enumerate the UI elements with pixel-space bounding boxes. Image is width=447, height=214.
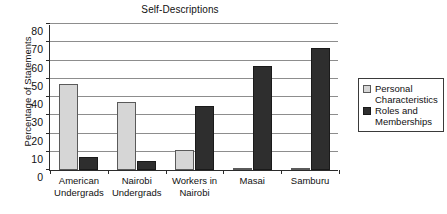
bar <box>175 150 194 170</box>
chart-figure: Self-Descriptions Percentage of Statemen… <box>0 0 447 214</box>
legend-swatch-icon <box>363 107 371 115</box>
x-tick-mark <box>223 170 224 174</box>
bar-group <box>166 25 224 170</box>
x-tick-label: Nairobi Undergrads <box>108 175 166 198</box>
bar <box>59 84 78 170</box>
chart-legend: Personal CharacteristicsRoles and Member… <box>358 78 444 132</box>
bar <box>79 157 98 170</box>
x-tick-label: American Undergrads <box>50 175 108 198</box>
plot-area: 80706050403020100 American UndergradsNai… <box>49 25 338 171</box>
bar-group <box>50 25 108 170</box>
x-tick-mark <box>281 170 282 174</box>
bar-group <box>281 25 339 170</box>
x-tick-mark <box>339 170 340 174</box>
x-tick-label: Samburu <box>281 175 339 187</box>
x-tick-mark <box>50 170 51 174</box>
bar-group <box>223 25 281 170</box>
chart-title: Self-Descriptions <box>0 4 360 15</box>
legend-item: Roles and Memberships <box>363 105 438 127</box>
bar <box>137 161 156 170</box>
bar <box>117 102 136 170</box>
x-tick-label: Masai <box>223 175 281 187</box>
legend-swatch-icon <box>363 85 371 93</box>
bar-series-container <box>50 25 338 170</box>
x-tick-mark <box>166 170 167 174</box>
legend-label: Personal Characteristics <box>375 83 438 105</box>
bar <box>253 66 272 170</box>
bar-group <box>108 25 166 170</box>
x-tick-label: Workers in Nairobi <box>166 175 224 198</box>
bar <box>291 168 310 170</box>
bar <box>233 168 252 170</box>
bar <box>311 48 330 170</box>
x-tick-mark <box>108 170 109 174</box>
legend-item: Personal Characteristics <box>363 83 438 105</box>
gridline <box>50 23 338 24</box>
y-tick-mark <box>46 23 50 24</box>
bar <box>195 106 214 170</box>
legend-label: Roles and Memberships <box>375 105 432 127</box>
